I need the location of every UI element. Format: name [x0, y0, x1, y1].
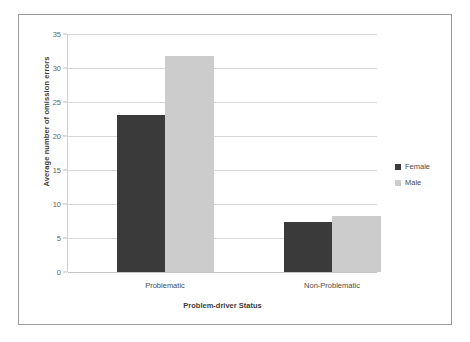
y-tick-label-10: 10: [53, 200, 61, 209]
y-axis-line: [67, 34, 68, 272]
y-tick-label-0: 0: [57, 268, 61, 277]
plot-area: 35 30 25 20 15 10 5 0 Problematic Non-Pr…: [68, 34, 377, 272]
tick-mark-20: [63, 136, 67, 137]
gridline-0: [68, 272, 377, 273]
gridline-10: [68, 204, 377, 205]
tick-mark-0: [63, 272, 67, 273]
legend-label-female: Female: [405, 162, 430, 171]
chart-legend: Female Male: [395, 162, 430, 194]
y-tick-label-30: 30: [53, 64, 61, 73]
y-tick-label-35: 35: [53, 30, 61, 39]
tick-mark-5: [63, 238, 67, 239]
y-tick-label-5: 5: [57, 234, 61, 243]
gridline-35: [68, 34, 377, 35]
tick-mark-35: [63, 34, 67, 35]
bar-female-problematic: [117, 115, 165, 272]
tick-mark-25: [63, 102, 67, 103]
legend-item-male: Male: [395, 178, 430, 187]
gridline-25: [68, 102, 377, 103]
gridline-15: [68, 170, 377, 171]
gridline-30: [68, 68, 377, 69]
legend-swatch-male-icon: [395, 180, 401, 186]
tick-mark-10: [63, 204, 67, 205]
tick-mark-15: [63, 170, 67, 171]
x-category-label-problematic: Problematic: [145, 281, 185, 290]
bar-female-non-problematic: [284, 222, 332, 272]
x-category-label-non-problematic: Non-Problematic: [304, 281, 360, 290]
bar-male-problematic: [165, 56, 214, 272]
y-axis-title: Average number of omission errors: [42, 17, 51, 227]
tick-mark-30: [63, 68, 67, 69]
y-tick-label-20: 20: [53, 132, 61, 141]
legend-swatch-female-icon: [395, 164, 401, 170]
chart-figure: Average number of omission errors 35 30 …: [18, 14, 452, 325]
y-tick-label-15: 15: [53, 166, 61, 175]
gridline-20: [68, 136, 377, 137]
legend-label-male: Male: [405, 178, 421, 187]
x-axis-title: Problem-driver Status: [68, 301, 377, 310]
y-tick-label-25: 25: [53, 98, 61, 107]
legend-item-female: Female: [395, 162, 430, 171]
bar-male-non-problematic: [332, 216, 381, 272]
